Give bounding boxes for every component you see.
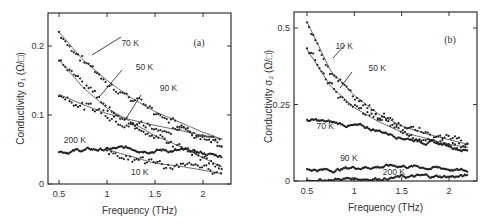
data-point	[323, 72, 325, 74]
data-point	[161, 163, 163, 165]
data-point	[323, 58, 325, 60]
data-point	[66, 44, 68, 46]
data-point	[155, 113, 157, 115]
data-point	[387, 120, 389, 122]
data-point	[373, 116, 375, 118]
data-point	[111, 84, 113, 86]
data-point	[400, 124, 402, 126]
data-point	[79, 105, 81, 107]
data-point	[329, 82, 331, 84]
data-point	[204, 156, 206, 158]
data-point	[185, 129, 187, 131]
data-point	[466, 150, 468, 152]
data-point	[427, 132, 429, 134]
data-point	[195, 136, 197, 138]
data-point	[212, 163, 214, 165]
curve-annotation: 90 K	[340, 153, 358, 163]
data-point	[379, 119, 381, 121]
data-point	[81, 102, 83, 104]
data-point	[331, 73, 333, 75]
data-point	[157, 130, 159, 132]
data-point	[159, 129, 161, 131]
data-point	[398, 127, 400, 129]
chart-panel-b: 0.511.5200.250.5Frequency (THz)Conductiv…	[263, 12, 477, 213]
data-point	[423, 139, 425, 141]
x-tick-label: 2	[200, 189, 205, 199]
data-point	[312, 52, 314, 54]
data-point	[406, 134, 408, 136]
data-point	[168, 142, 170, 144]
data-point	[66, 96, 68, 98]
data-point	[316, 64, 318, 66]
data-point	[155, 128, 157, 130]
curve-annotation: 10 K	[335, 41, 353, 51]
data-point	[159, 134, 161, 136]
data-point	[145, 104, 147, 106]
data-point	[221, 145, 223, 147]
data-point	[107, 117, 109, 119]
data-point	[170, 118, 172, 120]
data-point	[416, 130, 418, 132]
data-point	[111, 111, 113, 113]
data-point	[69, 100, 71, 102]
data-point	[112, 152, 114, 154]
data-point	[308, 52, 310, 54]
data-point	[466, 171, 468, 173]
data-point	[144, 162, 146, 164]
data-point	[108, 153, 110, 155]
data-point	[348, 88, 350, 90]
data-point	[373, 109, 375, 111]
data-point	[410, 126, 412, 128]
data-point	[79, 60, 81, 62]
data-point	[381, 116, 383, 118]
data-point	[441, 139, 443, 141]
curve-annotation: 10 K	[131, 167, 149, 177]
data-point	[368, 114, 370, 116]
data-point	[375, 113, 377, 115]
data-point	[412, 137, 414, 139]
x-tick-label: 0.5	[53, 189, 66, 199]
data-point	[174, 165, 176, 167]
data-point	[366, 107, 368, 109]
data-point	[142, 156, 144, 158]
data-point	[161, 130, 163, 132]
data-point	[354, 104, 356, 106]
data-point	[199, 159, 201, 161]
data-point	[96, 72, 98, 74]
data-point	[458, 137, 460, 139]
data-point	[202, 136, 204, 138]
data-point	[346, 86, 348, 88]
data-point	[165, 167, 167, 169]
data-point	[356, 105, 358, 107]
data-point	[133, 159, 135, 161]
data-point	[134, 99, 136, 101]
x-axis-label: Frequency (THz)	[102, 205, 177, 216]
data-point	[151, 128, 153, 130]
data-point	[368, 104, 370, 106]
data-point	[119, 157, 121, 159]
data-point	[94, 90, 96, 92]
data-point	[400, 131, 402, 133]
data-point	[425, 131, 427, 133]
data-point	[460, 139, 462, 141]
data-point	[62, 96, 64, 98]
fit-line	[59, 32, 222, 139]
data-point	[170, 141, 172, 143]
data-point	[212, 139, 214, 141]
y-tick-label: 0.2	[31, 41, 44, 51]
data-point	[130, 122, 132, 124]
fit-line	[307, 49, 468, 147]
data-point	[164, 138, 166, 140]
data-point	[452, 137, 454, 139]
data-point	[163, 167, 165, 169]
data-point	[62, 38, 64, 40]
data-point	[387, 117, 389, 119]
data-point	[314, 59, 316, 61]
data-point	[180, 126, 182, 128]
data-point	[131, 161, 133, 163]
data-point	[193, 164, 195, 166]
data-point	[77, 106, 79, 108]
data-point	[117, 124, 119, 126]
data-point	[161, 116, 163, 118]
y-axis-label: Conductivity σ₂ (Ω/□)	[263, 50, 274, 143]
